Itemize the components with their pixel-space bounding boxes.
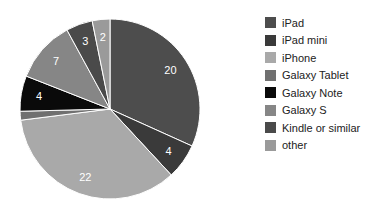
legend-item: Kindle or similar [265, 119, 360, 137]
legend-label: Galaxy S [282, 104, 327, 116]
slice-value-label: 2 [100, 31, 106, 43]
legend-item: Galaxy S [265, 102, 360, 120]
legend: iPadiPad miniiPhoneGalaxy TabletGalaxy N… [265, 14, 360, 154]
legend-item: other [265, 137, 360, 155]
slice-value-label: 7 [53, 55, 59, 67]
slice-value-label: 4 [165, 145, 171, 157]
legend-label: iPhone [282, 52, 316, 64]
legend-label: iPad [282, 17, 304, 29]
legend-swatch [265, 70, 276, 81]
legend-swatch [265, 17, 276, 28]
legend-label: Kindle or similar [282, 122, 360, 134]
legend-swatch [265, 87, 276, 98]
legend-swatch [265, 105, 276, 116]
slice-value-label: 20 [164, 64, 176, 76]
legend-item: iPad mini [265, 32, 360, 50]
legend-item: Galaxy Note [265, 84, 360, 102]
legend-label: other [282, 139, 307, 151]
legend-item: iPhone [265, 49, 360, 67]
legend-label: Galaxy Tablet [282, 69, 348, 81]
legend-swatch [265, 140, 276, 151]
legend-swatch [265, 122, 276, 133]
pie-chart: 204224732 [0, 0, 230, 206]
slice-value-label: 22 [79, 171, 91, 183]
legend-swatch [265, 35, 276, 46]
legend-swatch [265, 52, 276, 63]
slice-value-label: 3 [82, 35, 88, 47]
slice-value-label: 4 [36, 90, 42, 102]
legend-label: Galaxy Note [282, 87, 343, 99]
legend-label: iPad mini [282, 34, 327, 46]
legend-item: Galaxy Tablet [265, 67, 360, 85]
legend-item: iPad [265, 14, 360, 32]
